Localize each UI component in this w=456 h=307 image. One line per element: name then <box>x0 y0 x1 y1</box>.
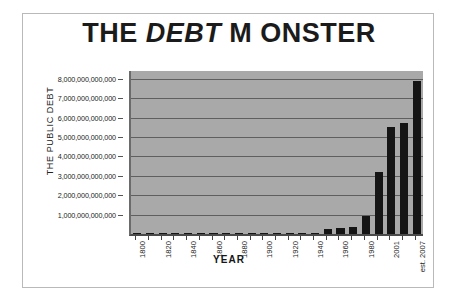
y-tick-mark <box>118 137 123 138</box>
y-tick-label: 1,000,000,000,000 <box>58 210 116 219</box>
bar <box>400 123 408 234</box>
x-tick-mark <box>377 236 378 240</box>
x-tick-mark <box>199 236 200 240</box>
chart-title: THE DEBT M ONSTER <box>23 20 435 47</box>
x-tick-mark <box>288 236 289 240</box>
y-tick-label: 8,000,000,000,000 <box>58 74 116 83</box>
y-tick-label: 7,000,000,000,000 <box>58 94 116 103</box>
bar <box>133 233 141 234</box>
y-tick-mark <box>118 195 123 196</box>
plot-area <box>129 71 423 236</box>
y-axis-tick-labels: 1,000,000,000,0002,000,000,000,0003,000,… <box>25 71 123 234</box>
y-tick-label: 5,000,000,000,000 <box>58 132 116 141</box>
x-tick-mark <box>415 236 416 240</box>
x-tick-mark <box>275 236 276 240</box>
x-tick-mark <box>300 236 301 240</box>
bar <box>235 233 243 234</box>
bar <box>159 233 167 234</box>
bar <box>197 233 205 234</box>
chart-title-emphasis: DEBT <box>146 18 222 48</box>
bar <box>336 228 344 234</box>
x-tick-mark <box>186 236 187 240</box>
x-axis-tick-labels: 1800182018401860188019001920194019601980… <box>129 236 421 296</box>
x-axis-title: YEAR <box>23 254 435 265</box>
y-tick-label: 6,000,000,000,000 <box>58 113 116 122</box>
x-tick-mark <box>402 236 403 240</box>
x-tick-mark <box>262 236 263 240</box>
chart-frame: THE DEBT M ONSTER THE PUBLIC DEBT 1,000,… <box>22 13 434 288</box>
bar <box>146 233 154 234</box>
y-tick-mark <box>118 118 123 119</box>
y-tick-mark <box>118 98 123 99</box>
x-tick-mark <box>224 236 225 240</box>
x-tick-mark <box>326 236 327 240</box>
x-tick-mark <box>148 236 149 240</box>
bar <box>273 233 281 234</box>
x-tick-mark <box>313 236 314 240</box>
bar <box>362 216 370 234</box>
y-tick-label: 4,000,000,000,000 <box>58 152 116 161</box>
y-tick-label: 3,000,000,000,000 <box>58 171 116 180</box>
bar <box>349 227 357 234</box>
x-tick-mark <box>364 236 365 240</box>
y-tick-mark <box>118 156 123 157</box>
bar <box>260 233 268 234</box>
x-tick-mark <box>135 236 136 240</box>
bar <box>209 233 217 234</box>
y-tick-mark <box>118 79 123 80</box>
chart-title-prefix: THE <box>82 18 146 48</box>
bar <box>184 233 192 234</box>
x-tick-mark <box>250 236 251 240</box>
bars-series <box>131 71 423 234</box>
bar <box>298 233 306 234</box>
x-tick-mark <box>161 236 162 240</box>
bar <box>413 81 421 234</box>
x-tick-mark <box>351 236 352 240</box>
plot-wrapper: 1,000,000,000,0002,000,000,000,0003,000,… <box>129 71 421 234</box>
y-tick-mark <box>118 215 123 216</box>
bar <box>375 172 383 234</box>
y-tick-label: 2,000,000,000,000 <box>58 191 116 200</box>
x-tick-mark <box>212 236 213 240</box>
bar <box>248 233 256 234</box>
bar <box>171 233 179 234</box>
bar <box>324 229 332 234</box>
bar <box>387 127 395 234</box>
x-tick-mark <box>389 236 390 240</box>
chart-screenshot: THE DEBT M ONSTER THE PUBLIC DEBT 1,000,… <box>0 0 456 307</box>
y-tick-mark <box>118 176 123 177</box>
x-tick-mark <box>173 236 174 240</box>
bar <box>222 233 230 234</box>
x-tick-mark <box>338 236 339 240</box>
bar <box>311 233 319 234</box>
bar <box>286 233 294 234</box>
chart-title-suffix: M ONSTER <box>221 18 376 48</box>
x-tick-mark <box>237 236 238 240</box>
